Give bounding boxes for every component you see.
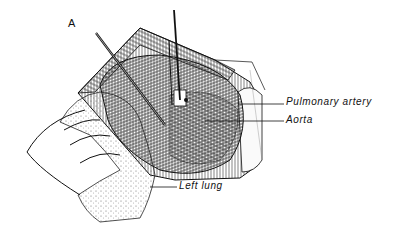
surgical-illustration: A Pulmonary artery Aorta Left lung: [0, 0, 404, 231]
panel-letter: A: [68, 17, 75, 29]
label-aorta: Aorta: [286, 114, 313, 125]
illustration-drawing: [0, 0, 404, 231]
label-pulmonary-artery: Pulmonary artery: [286, 96, 372, 107]
label-left-lung: Left lung: [179, 180, 223, 191]
